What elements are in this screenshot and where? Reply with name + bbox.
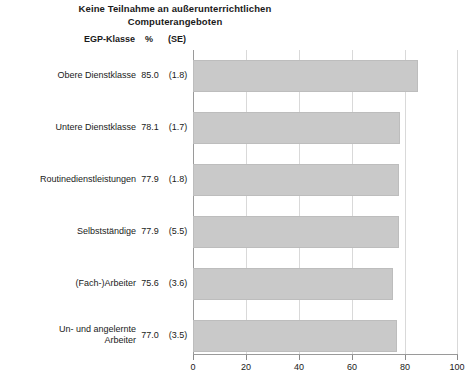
x-tick-80 [405, 355, 406, 360]
gridline-60 [352, 50, 353, 355]
row-label-2-line1: Routinedienstleistungen [40, 174, 136, 184]
row-se-0: (1.8) [164, 70, 192, 81]
x-tick-label-40: 40 [284, 362, 314, 372]
x-tick-label-0: 0 [178, 362, 208, 372]
row-label-3-line1: Selbstständige [77, 226, 136, 236]
x-tick-60 [352, 355, 353, 360]
row-se-2: (1.8) [164, 174, 192, 185]
x-axis-line [193, 354, 458, 355]
bar-fach-arbeiter [193, 268, 393, 300]
bar-untere-dienstklasse [193, 112, 400, 144]
row-percent-0: 85.0 [138, 70, 162, 81]
x-tick-label-100: 100 [442, 362, 470, 372]
x-tick-100 [457, 355, 458, 360]
gridline-40 [299, 50, 300, 355]
row-label-0: Obere Dienstklasse [0, 70, 136, 81]
plot-area [193, 50, 458, 355]
row-label-1: Untere Dienstklasse [0, 122, 136, 133]
row-label-3: Selbstständige [0, 226, 136, 237]
bar-chart: Obere Dienstklasse 85.0 (1.8) Untere Die… [0, 0, 470, 381]
row-label-4-line1: (Fach-)Arbeiter [75, 278, 136, 288]
bar-selbststaendige [193, 216, 399, 248]
row-label-5-line1: Un- und angelernte [59, 324, 136, 334]
row-se-4: (3.6) [164, 278, 192, 289]
x-tick-0 [193, 355, 194, 360]
row-label-1-line1: Untere Dienstklasse [55, 122, 136, 132]
bar-un-und-angelernte-arbeiter [193, 320, 397, 352]
gridline-100 [457, 50, 458, 355]
row-percent-1: 78.1 [138, 122, 162, 133]
row-percent-5: 77.0 [138, 330, 162, 341]
x-tick-label-60: 60 [337, 362, 367, 372]
gridline-20 [246, 50, 247, 355]
gridline-80 [405, 50, 406, 355]
row-percent-3: 77.9 [138, 226, 162, 237]
bar-obere-dienstklasse [193, 60, 418, 92]
row-label-4: (Fach-)Arbeiter [0, 278, 136, 289]
row-se-5: (3.5) [164, 330, 192, 341]
row-label-0-line1: Obere Dienstklasse [57, 70, 136, 80]
row-percent-2: 77.9 [138, 174, 162, 185]
bar-routinedienstleistungen [193, 164, 399, 196]
row-percent-4: 75.6 [138, 278, 162, 289]
x-tick-label-80: 80 [390, 362, 420, 372]
row-label-2: Routinedienstleistungen [0, 174, 136, 185]
y-axis-line [193, 50, 194, 355]
x-tick-20 [246, 355, 247, 360]
x-tick-label-20: 20 [231, 362, 261, 372]
row-se-1: (1.7) [164, 122, 192, 133]
x-tick-40 [299, 355, 300, 360]
row-se-3: (5.5) [164, 226, 192, 237]
row-label-5-line2: Arbeiter [104, 335, 136, 345]
row-label-5: Un- und angelernte Arbeiter [0, 324, 136, 346]
